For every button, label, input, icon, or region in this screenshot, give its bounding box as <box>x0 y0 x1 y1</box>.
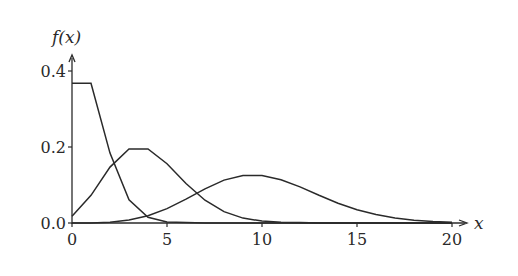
x-tick-label: 20 <box>442 230 462 249</box>
x-axis-label: x <box>474 213 484 233</box>
series-line-1 <box>72 149 452 223</box>
tick-labels: 051015200.00.20.4 <box>41 62 463 249</box>
series-lines <box>72 83 452 223</box>
y-axis-label: f(x) <box>50 27 81 47</box>
x-tick-label: 15 <box>347 230 367 249</box>
y-tick-label: 0.4 <box>41 62 66 81</box>
ticks <box>68 71 452 227</box>
x-tick-label: 10 <box>252 230 272 249</box>
y-tick-label: 0.0 <box>41 214 66 233</box>
x-tick-label: 0 <box>67 230 77 249</box>
poisson-pmf-chart: 051015200.00.20.4 f(x) x <box>0 0 518 276</box>
series-line-0 <box>72 83 452 223</box>
x-tick-label: 5 <box>162 230 172 249</box>
y-tick-label: 0.2 <box>41 138 66 157</box>
